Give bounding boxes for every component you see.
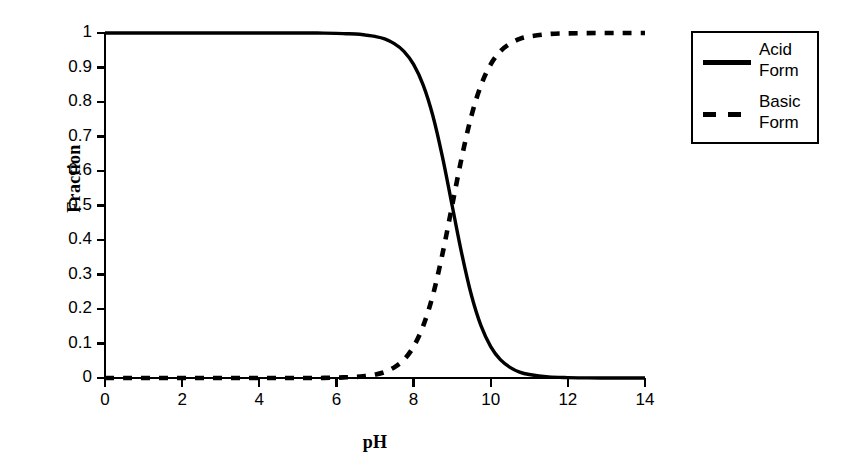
curve-basic-form — [105, 33, 645, 378]
axes-group — [97, 33, 645, 387]
legend-label-acid-form: Acid Form — [759, 39, 819, 81]
legend-label-basic-form-line2: Form — [759, 112, 819, 133]
x-tick-label-6: 12 — [548, 390, 588, 410]
y-tick-label-9: 0.9 — [30, 57, 92, 77]
x-tick-label-4: 8 — [394, 390, 434, 410]
legend-sample-solid-line — [703, 60, 751, 65]
y-tick-label-7: 0.7 — [30, 126, 92, 146]
legend-entry-basic-form: Basic Form — [693, 91, 817, 141]
y-tick-label-10: 1 — [30, 22, 92, 42]
curve-acid-form — [105, 33, 645, 378]
y-tick-label-1: 0.1 — [30, 333, 92, 353]
y-tick-label-3: 0.3 — [30, 264, 92, 284]
x-tick-label-0: 0 — [85, 390, 125, 410]
y-tick-label-8: 0.8 — [30, 91, 92, 111]
legend-entry-acid-form: Acid Form — [693, 39, 817, 89]
legend-label-acid-form-line1: Acid — [759, 40, 792, 59]
x-tick-label-5: 10 — [471, 390, 511, 410]
legend-label-basic-form: Basic Form — [759, 91, 819, 133]
chart-figure: Fraction pH 00.10.20.30.40.50.60.70.80.9… — [0, 0, 841, 471]
x-tick-label-7: 14 — [625, 390, 665, 410]
x-tick-label-3: 6 — [316, 390, 356, 410]
y-tick-label-6: 0.6 — [30, 160, 92, 180]
y-tick-label-4: 0.4 — [30, 229, 92, 249]
x-axis-title: pH — [0, 432, 750, 453]
legend: Acid Form Basic Form — [691, 31, 819, 144]
y-tick-label-2: 0.2 — [30, 298, 92, 318]
x-tick-label-1: 2 — [162, 390, 202, 410]
legend-sample-dashed-line — [703, 112, 751, 117]
y-tick-label-0: 0 — [30, 367, 92, 387]
x-tick-label-2: 4 — [239, 390, 279, 410]
legend-label-acid-form-line2: Form — [759, 60, 819, 81]
curves-group — [105, 33, 645, 378]
y-tick-label-5: 0.5 — [30, 195, 92, 215]
legend-label-basic-form-line1: Basic — [759, 92, 801, 111]
